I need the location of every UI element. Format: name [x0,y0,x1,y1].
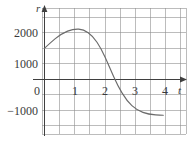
grid-lines-horizontal [42,8,186,134]
grid-lines-vertical [42,8,186,134]
y-tick-label-2000: 2000 [2,27,38,39]
x-tick-label-2: 2 [98,85,112,97]
x-axis [33,76,187,82]
y-axis-name-label: r [36,3,40,14]
x-tick-label-0: 0 [30,85,44,97]
x-tick-label-4: 4 [158,85,172,97]
y-axis [42,5,48,136]
y-tick-label-1000: 1000 [2,58,38,70]
x-tick-label-3: 3 [128,85,142,97]
curve-r-of-t [45,29,164,115]
y-tick-label-minus-1000: −1000 [0,105,38,117]
chart-figure: 2000 1000 −1000 0 1 2 3 4 r t [0,0,195,141]
x-axis-name-label: t [178,85,181,96]
x-tick-label-1: 1 [68,85,82,97]
